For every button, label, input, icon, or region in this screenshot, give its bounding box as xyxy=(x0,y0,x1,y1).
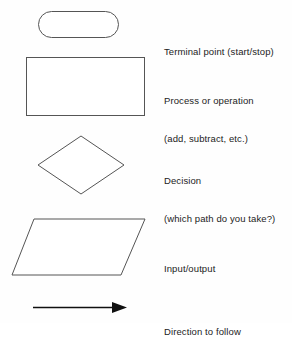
direction-arrow-shape xyxy=(28,298,134,316)
input-output-parallelogram-icon xyxy=(8,214,148,280)
direction-label-line-1: Direction to follow xyxy=(164,326,241,339)
decision-diamond-icon xyxy=(36,134,126,196)
decision-label-line-2: (which path do you take?) xyxy=(164,213,275,226)
decision-label: Decision (which path do you take?) xyxy=(164,150,275,250)
decision-label-line-1: Decision xyxy=(164,175,275,188)
input-output-shape xyxy=(8,214,148,280)
process-shape xyxy=(26,57,145,116)
process-label-line-2: (add, subtract, etc.) xyxy=(164,133,254,146)
input-output-label-line-1: Input/output xyxy=(164,263,215,276)
terminal-shape xyxy=(38,11,119,38)
arrow-right-icon xyxy=(28,298,134,316)
decision-shape xyxy=(36,134,126,196)
process-label-line-1: Process or operation xyxy=(164,95,254,108)
input-output-label: Input/output xyxy=(164,238,215,301)
terminal-label-line-1: Terminal point (start/stop) xyxy=(164,46,274,59)
direction-label: Direction to follow xyxy=(164,301,241,339)
